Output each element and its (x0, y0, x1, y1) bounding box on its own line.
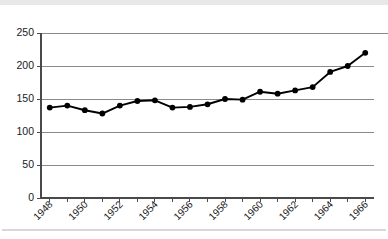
data-point (82, 107, 88, 113)
y-tick-label: 200 (16, 59, 34, 71)
data-point (327, 69, 333, 75)
y-tick-label: 250 (16, 26, 34, 38)
data-point (99, 111, 105, 117)
y-tick-label: 0 (28, 191, 34, 203)
data-point-markers (47, 50, 368, 117)
y-tick-label: 100 (16, 125, 34, 137)
y-axis-tick-labels: 050100150200250 (16, 26, 34, 203)
data-point (222, 96, 228, 102)
x-tick-label: 1954 (136, 198, 160, 222)
x-tick-label: 1948 (31, 198, 55, 222)
x-tick-label: 1960 (241, 198, 265, 222)
bottom-rule (2, 229, 386, 231)
data-point (362, 50, 368, 56)
x-tick-label: 1950 (66, 198, 90, 222)
data-point (134, 98, 140, 104)
x-axis-ticks (50, 198, 365, 202)
y-tick-label: 50 (22, 158, 34, 170)
data-point (170, 105, 176, 111)
x-tick-label: 1952 (101, 198, 125, 222)
data-point (257, 89, 263, 95)
data-point (310, 84, 316, 90)
data-point (152, 97, 158, 103)
x-tick-label: 1966 (347, 198, 371, 222)
x-tick-label: 1956 (171, 198, 195, 222)
line-chart: 050100150200250 194819501952195419561958… (0, 0, 388, 239)
gridlines (41, 33, 388, 165)
data-point (345, 63, 351, 69)
y-tick-label: 150 (16, 92, 34, 104)
data-point (275, 91, 281, 97)
x-axis-tick-labels: 1948195019521954195619581960196219641966 (31, 198, 370, 222)
data-point (187, 104, 193, 110)
chart-container: 050100150200250 194819501952195419561958… (0, 0, 388, 239)
data-point (64, 103, 70, 109)
data-point (47, 105, 53, 111)
data-point (240, 97, 246, 103)
data-point (292, 88, 298, 94)
x-tick-label: 1962 (277, 198, 301, 222)
x-tick-label: 1964 (312, 198, 336, 222)
x-tick-label: 1958 (206, 198, 230, 222)
data-point (117, 103, 123, 109)
data-point (205, 101, 211, 107)
